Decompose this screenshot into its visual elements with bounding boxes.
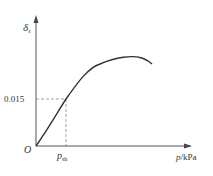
y-marker-label: 0.015 — [4, 94, 25, 104]
y-axis-arrow-icon — [34, 15, 39, 23]
y-axis-label: δs — [23, 21, 31, 34]
data-curve — [36, 57, 152, 146]
x-axis-label: p/kPa — [175, 152, 197, 162]
chart: δs 0.015 O psh p/kPa — [0, 0, 213, 176]
origin-label: O — [24, 144, 31, 155]
x-marker-label: psh — [56, 150, 67, 162]
x-axis-arrow-icon — [184, 144, 192, 149]
